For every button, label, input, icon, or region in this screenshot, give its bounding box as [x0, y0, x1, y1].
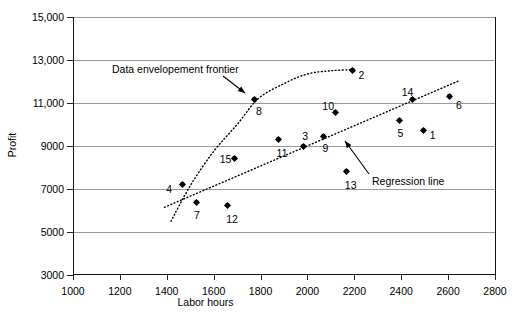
data-point-label: 12 — [226, 214, 238, 225]
regression-annotation-arrow-head — [345, 141, 351, 148]
curves-and-arrows-overlay — [0, 0, 517, 321]
data-point-label: 7 — [194, 210, 200, 221]
data-point-label: 3 — [302, 131, 308, 142]
frontier-annotation-text: Data envelopement frontier — [112, 63, 239, 75]
data-point-label: 10 — [322, 101, 334, 112]
data-point-label: 11 — [277, 148, 288, 159]
data-point-label: 9 — [322, 143, 328, 154]
regression-annotation-text: Regression line — [372, 175, 444, 187]
data-point-label: 6 — [456, 100, 462, 111]
data-point-label: 1 — [430, 130, 436, 141]
data-point-label: 8 — [256, 106, 262, 117]
data-point-label: 5 — [398, 128, 404, 139]
data-point-label: 2 — [358, 70, 364, 81]
annotation-arrows-group — [223, 76, 369, 174]
chart-root: 300050007000900011,00013,00015,000 10001… — [0, 0, 517, 321]
data-point-label: 4 — [166, 184, 172, 195]
data-point-label: 13 — [345, 180, 357, 191]
frontier-annotation-arrow-head — [238, 86, 245, 93]
data-point-label: 14 — [402, 87, 414, 98]
data-point-label: 15 — [220, 154, 232, 165]
trend-curves-group — [164, 70, 459, 222]
